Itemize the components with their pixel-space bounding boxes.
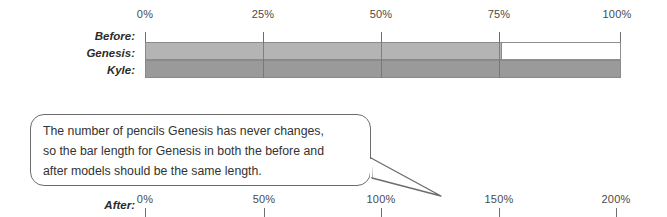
before-tick-label-0: 0% [137,8,153,20]
after-tick-0 [145,208,146,217]
after-tick-4 [616,208,617,217]
callout-text: The number of pencils Genesis has never … [43,121,363,181]
after-tick-1 [264,208,265,217]
before-tick-label-1: 25% [252,8,275,20]
after-tick-label-2: 100% [367,193,396,205]
after-tick-label-3: 150% [485,193,514,205]
figure-canvas: 0% 25% 50% 75% 100% Before: Genesis: Kyl… [0,0,667,217]
before-row-label: Before: [35,30,135,42]
bar-genesis [145,42,502,60]
before-gridline-2-overlay [381,32,382,78]
bar-kyle [145,60,621,78]
after-tick-3 [499,208,500,217]
before-tick-label-2: 50% [370,8,393,20]
after-tick-label-0: 0% [137,193,153,205]
after-tick-2 [381,208,382,217]
after-tick-label-4: 200% [602,193,631,205]
bar-label-kyle: Kyle: [35,64,135,76]
before-gridline-3-overlay [499,32,500,78]
before-tick-label-4: 100% [603,8,632,20]
bar-label-genesis: Genesis: [35,47,135,59]
before-gridline-1-overlay [263,32,264,78]
after-tick-label-1: 50% [253,193,276,205]
before-tick-label-3: 75% [488,8,511,20]
after-row-label: After: [35,199,135,211]
